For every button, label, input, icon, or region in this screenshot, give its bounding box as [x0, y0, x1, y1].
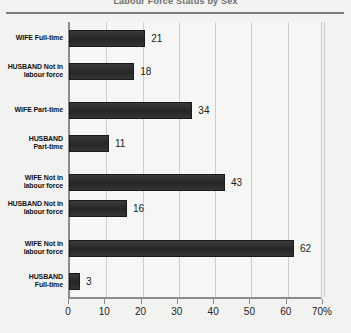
chart-container: Labour Force Status by Sex WIFE Full-tim… — [0, 0, 351, 333]
bar-value-label: 21 — [151, 34, 162, 44]
category-label: HUSBAND Not inlabour force — [0, 200, 63, 217]
x-tick-label: 30 — [157, 306, 197, 317]
bar — [69, 174, 225, 191]
x-tick-10 — [104, 299, 105, 304]
bar-value-label: 43 — [231, 178, 242, 188]
x-tick-70 — [322, 299, 323, 304]
x-tick-label: 20 — [121, 306, 161, 317]
x-tick-label: 50 — [229, 306, 269, 317]
x-tick-label: 0 — [48, 306, 88, 317]
x-tick-0 — [68, 299, 69, 304]
category-label: WIFE Not inlabour force — [0, 240, 63, 257]
bar — [69, 273, 80, 290]
category-label: WIFE Part-time — [0, 106, 63, 115]
bar — [69, 63, 134, 80]
category-label: HUSBAND Not inlabour force — [0, 63, 63, 80]
bar-value-label: 3 — [86, 277, 92, 287]
bar-value-label: 62 — [300, 244, 311, 254]
category-label: WIFE Not inlabour force — [0, 174, 63, 191]
bar-rows: WIFE Full-time21HUSBAND Not inlabour for… — [0, 0, 351, 333]
x-tick-40 — [213, 299, 214, 304]
x-tick-label: 60 — [266, 306, 306, 317]
category-label: HUSBANDPart-time — [0, 135, 63, 152]
bar — [69, 102, 192, 119]
category-label: HUSBANDFull-time — [0, 273, 63, 290]
x-tick-30 — [177, 299, 178, 304]
bar — [69, 240, 294, 257]
x-tick-label: 10 — [84, 306, 124, 317]
bar — [69, 135, 109, 152]
x-tick-20 — [141, 299, 142, 304]
x-tick-label: 70% — [302, 306, 342, 317]
x-tick-label: 40 — [193, 306, 233, 317]
x-tick-60 — [286, 299, 287, 304]
bar-value-label: 34 — [198, 106, 209, 116]
bar-value-label: 11 — [115, 139, 125, 149]
bar-value-label: 18 — [140, 67, 151, 77]
x-tick-50 — [249, 299, 250, 304]
bar — [69, 200, 127, 217]
bar — [69, 30, 145, 47]
bar-value-label: 16 — [133, 204, 144, 214]
category-label: WIFE Full-time — [0, 34, 63, 43]
